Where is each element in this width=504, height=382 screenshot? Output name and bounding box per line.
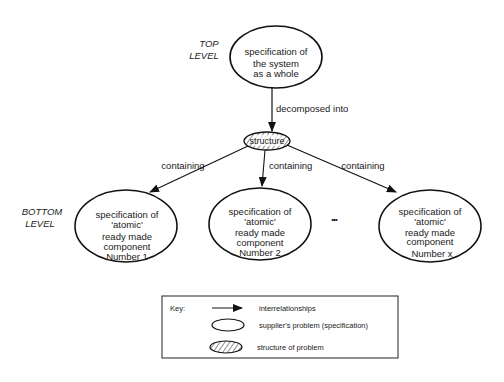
svg-text:Number x: Number x: [411, 248, 452, 259]
edge-decomposed-into: decomposed into: [272, 88, 348, 131]
svg-text:LEVEL: LEVEL: [189, 50, 219, 61]
structure-node: structure: [244, 132, 290, 150]
svg-text:Number 1: Number 1: [106, 251, 148, 262]
bottom-node-2: specification of 'atomic' ready made com…: [209, 188, 311, 260]
svg-text:'atomic': 'atomic': [414, 216, 446, 227]
svg-text:component: component: [406, 236, 453, 247]
bottom-level-label: BOTTOM LEVEL: [22, 206, 63, 229]
legend-hatched-ellipse-item: structure of problem: [210, 341, 324, 353]
svg-text:LEVEL: LEVEL: [25, 218, 55, 229]
edge-containing-1: containing: [150, 146, 248, 192]
legend-ellipse-item: supplier's problem (specification): [212, 319, 368, 331]
svg-text:structure: structure: [249, 136, 284, 146]
legend-key: Key: interrelationships supplier's probl…: [162, 296, 398, 358]
edge-containing-2: containing: [262, 150, 312, 186]
svg-text:containing: containing: [161, 160, 204, 171]
svg-text:Key:: Key:: [170, 304, 185, 313]
svg-text:decomposed into: decomposed into: [276, 103, 348, 114]
svg-text:TOP: TOP: [199, 38, 219, 49]
svg-text:Number 2: Number 2: [239, 247, 281, 258]
ellipsis-more-components: •••: [331, 215, 338, 224]
svg-text:'atomic': 'atomic': [111, 219, 143, 230]
svg-text:containing: containing: [341, 160, 384, 171]
svg-text:supplier's problem (specificat: supplier's problem (specification): [259, 321, 368, 330]
svg-text:'atomic': 'atomic': [244, 216, 276, 227]
bottom-node-x: specification of 'atomic' ready made com…: [379, 190, 481, 262]
top-level-label: TOP LEVEL: [189, 38, 219, 61]
svg-text:as a whole: as a whole: [253, 68, 298, 79]
svg-text:structure of problem: structure of problem: [257, 343, 324, 352]
bottom-node-1: specification of 'atomic' ready made com…: [75, 190, 177, 262]
top-node-system-spec: specification of the system as a whole: [230, 26, 322, 88]
svg-text:containing: containing: [269, 160, 312, 171]
svg-text:specification of: specification of: [245, 46, 308, 57]
svg-text:•••: •••: [331, 215, 338, 224]
svg-text:interrelationships: interrelationships: [259, 304, 316, 313]
decomposition-diagram: TOP LEVEL BOTTOM LEVEL specification of …: [0, 0, 504, 382]
svg-text:BOTTOM: BOTTOM: [22, 206, 63, 217]
